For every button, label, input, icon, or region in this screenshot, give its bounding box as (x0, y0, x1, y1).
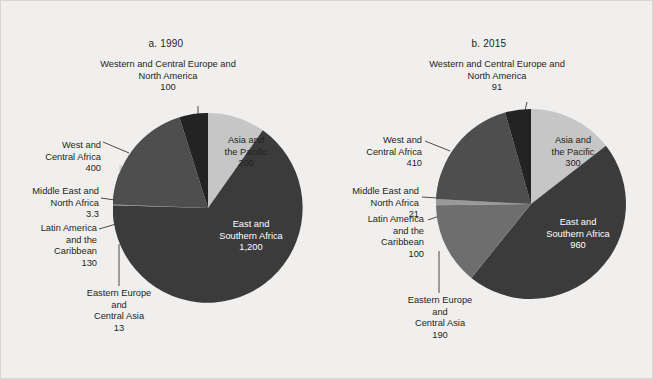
label-west-central-africa-1990: West and Central Africa 400 (9, 140, 101, 175)
panel-title-2015: b. 2015 (324, 38, 653, 49)
slice-label-asia-pacific-1990: Asia and the Pacific 200 (211, 135, 281, 170)
label-western-central-europe-north-america-2015: Western and Central Europe and North Ame… (392, 59, 602, 94)
label-latin-america-caribbean-1990: Latin America and the Caribbean 130 (7, 223, 97, 269)
panel-title-1990: a. 1990 (1, 38, 331, 49)
label-eastern-europe-central-asia-2015: Eastern Europe and Central Asia 190 (386, 295, 494, 341)
label-eastern-europe-central-asia-1990: Eastern Europe and Central Asia 13 (65, 288, 173, 334)
slice-label-east-southern-africa-1990: East and Southern Africa 1,200 (205, 219, 297, 254)
label-west-central-africa-2015: West and Central Africa 410 (332, 135, 422, 170)
slice-label-asia-pacific-2015: Asia and the Pacific 300 (536, 135, 610, 170)
pie-chart-1990: Asia and the Pacific 200 East and Southe… (113, 113, 303, 303)
label-middle-east-north-africa-1990: Middle East and North Africa 3.3 (1, 186, 99, 221)
panel-2015: b. 2015 (324, 1, 653, 379)
panel-1990: a. 1990 (1, 1, 331, 379)
figure-root: a. 1990 (0, 0, 653, 379)
slice-label-east-southern-africa-2015: East and Southern Africa 960 (532, 217, 624, 252)
label-latin-america-caribbean-2015: Latin America and the Caribbean 100 (334, 214, 424, 260)
pie-chart-2015: Asia and the Pacific 300 East and Southe… (436, 109, 626, 299)
label-western-central-europe-north-america-1990: Western and Central Europe and North Ame… (63, 59, 273, 94)
